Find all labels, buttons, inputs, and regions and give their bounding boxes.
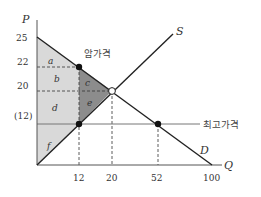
equilibrium-point <box>109 88 116 95</box>
ytick-22: 22 <box>17 57 28 67</box>
xtick-20: 20 <box>106 173 118 183</box>
ytick-25: 25 <box>16 33 28 43</box>
demand-at-ceiling-point <box>155 121 161 127</box>
ytick-12: (12) <box>14 111 32 121</box>
xtick-100: 100 <box>203 173 220 183</box>
supply-label: S <box>176 25 184 38</box>
region-c-label: c <box>85 78 90 88</box>
demand-label: D <box>199 144 209 157</box>
region-e-label: e <box>87 98 92 108</box>
region-d-label: d <box>52 103 58 113</box>
price-ceiling-diagram: P Q S D 25 22 20 (12) 12 20 52 100 암가격 최… <box>0 0 261 197</box>
xtick-52: 52 <box>151 173 162 183</box>
ytick-20: 20 <box>17 81 29 91</box>
supply-at-ceiling-point <box>76 121 82 127</box>
xtick-12: 12 <box>73 173 84 183</box>
x-axis-label: Q <box>224 159 233 172</box>
region-d-shade <box>37 91 79 124</box>
black-market-price-label: 암가격 <box>84 48 111 59</box>
y-axis-label: P <box>21 13 30 26</box>
price-ceiling-label: 최고가격 <box>203 119 239 130</box>
region-b-label: b <box>54 74 60 84</box>
region-a-label: a <box>48 56 53 66</box>
black-market-point <box>76 64 82 70</box>
